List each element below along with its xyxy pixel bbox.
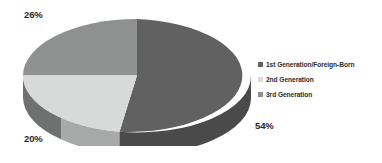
- legend-item-third-generation[interactable]: 3rd Generation: [258, 88, 380, 101]
- pie-top-surface: [23, 19, 242, 132]
- pie-slice-third-generation: [23, 19, 137, 76]
- legend-label-second-generation: 2nd Generation: [266, 76, 314, 83]
- pie-chart-svg: [21, 17, 255, 146]
- legend-swatch-icon: [258, 92, 263, 97]
- legend-item-first-generation[interactable]: 1st Generation/Foreign-Born: [258, 58, 380, 71]
- data-label-third-generation: 26%: [24, 9, 43, 20]
- pie-chart-figure: [21, 17, 255, 146]
- legend-item-second-generation[interactable]: 2nd Generation: [258, 73, 380, 86]
- pie-chart-screenshot: 26% 20% 54% 1st Generation/Foreign-Born …: [0, 0, 382, 163]
- legend-swatch-icon: [258, 62, 263, 67]
- legend-swatch-icon: [258, 77, 263, 82]
- data-label-first-generation: 54%: [255, 120, 274, 131]
- legend-label-third-generation: 3rd Generation: [266, 91, 312, 98]
- chart-legend: 1st Generation/Foreign-Born 2nd Generati…: [258, 58, 380, 103]
- legend-label-first-generation: 1st Generation/Foreign-Born: [266, 61, 354, 68]
- data-label-second-generation: 20%: [24, 133, 43, 144]
